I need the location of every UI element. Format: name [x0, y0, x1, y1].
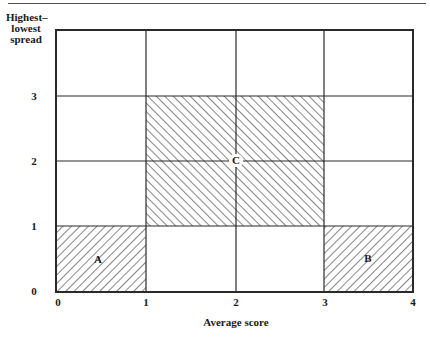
- x-tick-4: 4: [405, 297, 421, 308]
- y-tick-2: 2: [28, 156, 40, 167]
- x-tick-2: 2: [228, 297, 244, 308]
- x-axis-title: Average score: [186, 316, 286, 328]
- x-tick-3: 3: [317, 297, 333, 308]
- x-tick-0: 0: [50, 297, 66, 308]
- region-a-label: A: [91, 254, 105, 265]
- region-b-label: B: [361, 253, 375, 264]
- y-tick-0: 0: [28, 286, 40, 297]
- y-tick-1: 1: [28, 221, 40, 232]
- x-tick-1: 1: [138, 297, 154, 308]
- region-c-label: C: [229, 154, 243, 167]
- y-tick-3: 3: [28, 91, 40, 102]
- grid-plot: [0, 0, 430, 344]
